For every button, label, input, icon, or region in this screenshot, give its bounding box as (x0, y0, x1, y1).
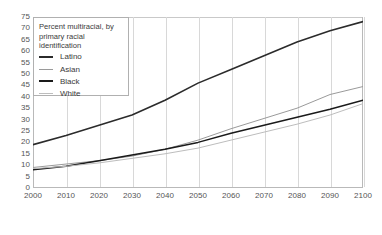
y-axis-tick-label: 40 (4, 93, 30, 101)
legend-item-white[interactable]: White (39, 87, 123, 99)
legend-item-label: Latino (60, 52, 82, 61)
legend-item-label: White (60, 89, 80, 98)
x-axis-tick-label: 2040 (150, 191, 180, 200)
chart-legend: Percent multiracial, by primary racial i… (33, 17, 129, 96)
y-axis-tick-label: 75 (4, 13, 30, 21)
x-axis-tick-label: 2090 (315, 191, 345, 200)
x-axis-tick-label: 2020 (84, 191, 114, 200)
legend-title: Percent multiracial, by primary racial i… (39, 22, 123, 51)
y-axis-tick-label: 70 (4, 24, 30, 32)
legend-item-latino[interactable]: Latino (39, 51, 123, 63)
y-axis-tick-label: 10 (4, 161, 30, 169)
line-series-black (33, 100, 363, 170)
legend-item-black[interactable]: Black (39, 75, 123, 87)
y-axis-tick-label: 20 (4, 138, 30, 146)
legend-swatch-latino-icon (39, 56, 53, 58)
y-axis-tick-label: 15 (4, 150, 30, 158)
x-axis-tick-label: 2030 (117, 191, 147, 200)
x-axis-tick-label: 2100 (348, 191, 378, 200)
y-axis-tick-label: 60 (4, 47, 30, 55)
x-axis-tick-label: 2000 (18, 191, 48, 200)
legend-item-asian[interactable]: Asian (39, 63, 123, 75)
legend-item-label: Asian (60, 65, 80, 74)
legend-swatch-black-icon (39, 80, 53, 82)
x-axis-tick-label: 2060 (216, 191, 246, 200)
legend-item-label: Black (60, 77, 80, 86)
y-axis-tick-label: 35 (4, 104, 30, 112)
x-axis-tick-label: 2070 (249, 191, 279, 200)
legend-items: LatinoAsianBlackWhite (39, 51, 123, 100)
x-axis-tick-label: 2050 (183, 191, 213, 200)
legend-swatch-asian-icon (39, 69, 53, 70)
legend-swatch-white-icon (39, 93, 53, 94)
x-gridline (364, 17, 365, 187)
chart-figure: 051015202530354045505560657075 Percent m… (0, 0, 382, 235)
y-axis-tick-label: 55 (4, 59, 30, 67)
y-axis-tick-label: 45 (4, 81, 30, 89)
y-axis-tick-label: 25 (4, 127, 30, 135)
y-axis-tick-label: 5 (4, 173, 30, 181)
y-axis-tick-label: 50 (4, 70, 30, 78)
y-axis-tick-label: 65 (4, 36, 30, 44)
y-axis-tick-label: 30 (4, 116, 30, 124)
x-axis-tick-label: 2010 (51, 191, 81, 200)
x-axis-tick-label: 2080 (282, 191, 312, 200)
